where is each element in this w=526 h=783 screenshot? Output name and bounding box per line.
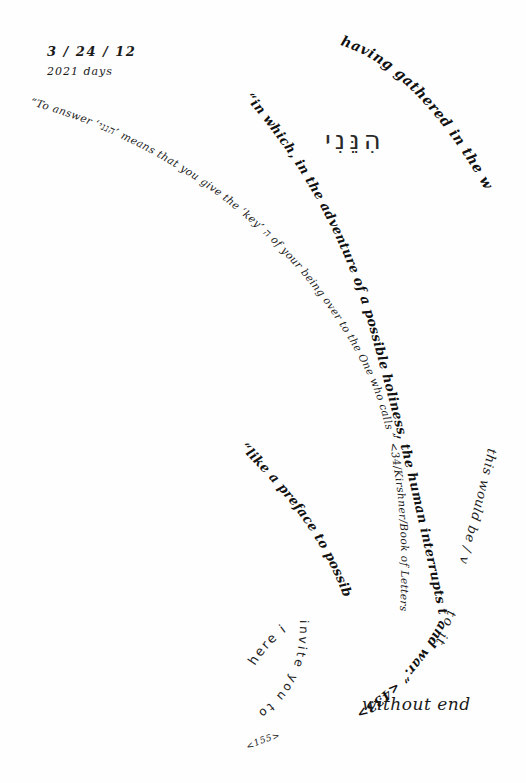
phrase-here-i: here i [245, 621, 290, 668]
phrase-in-which: “in which, in the adventure of a possibl… [0, 0, 451, 616]
handwritten-page: 3 / 24 / 12 2021 days הִנֵּנִי having ga… [0, 0, 526, 783]
phrase-like-a-preface: “like a preface to possible research” <2… [0, 0, 355, 599]
curved-text-layer: having gathered in the word “To answer ‘… [0, 0, 526, 783]
phrase-without-end: without end [362, 694, 471, 714]
phrase-to-answer: “To answer ‘הנני’ means that you give th… [0, 0, 411, 612]
closing-reference: <155> [244, 730, 281, 751]
phrase-this-would-be: this would be / ver [0, 0, 500, 566]
